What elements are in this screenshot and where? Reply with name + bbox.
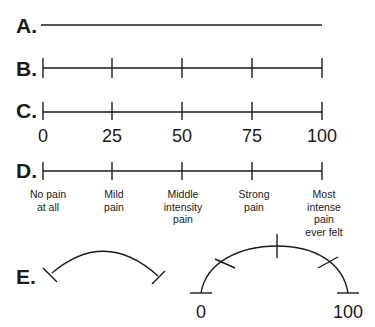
descriptor-middle: Middle intensity pain: [148, 188, 218, 226]
arc-label-0: 0: [196, 303, 206, 321]
tick-label-0: 0: [38, 127, 48, 145]
scale-c-label: C.: [16, 100, 37, 121]
scale-e-label: E.: [16, 266, 36, 287]
descriptor-most-intense: Most intense pain ever felt: [289, 188, 359, 238]
descriptor-no-pain: No pain at all: [13, 188, 83, 213]
tick-label-100: 100: [307, 127, 337, 145]
scale-a-label: A.: [16, 15, 37, 36]
tick-label-50: 50: [172, 127, 192, 145]
pain-scales-figure: [0, 0, 375, 327]
tick-label-75: 75: [242, 127, 262, 145]
tick-label-25: 25: [102, 127, 122, 145]
scale-d-label: D.: [16, 160, 37, 181]
scale-c: [43, 102, 322, 120]
descriptor-strong: Strong pain: [219, 188, 289, 213]
descriptor-mild: Mild pain: [79, 188, 149, 213]
scale-b: [43, 58, 322, 78]
arc-label-100: 100: [333, 303, 363, 321]
scale-d: [43, 162, 322, 180]
scale-e-right-arc: [190, 234, 359, 293]
scale-b-label: B.: [16, 58, 37, 79]
scale-e-left-arc: [43, 251, 165, 284]
